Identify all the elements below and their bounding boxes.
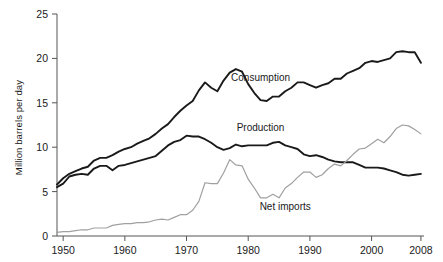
series-label-net-imports: Net imports: [260, 201, 311, 212]
y-tick-label: 20: [36, 52, 48, 64]
x-tick-label: 1960: [113, 244, 137, 256]
x-tick-label: 1950: [51, 244, 75, 256]
x-tick-label: 2008: [409, 244, 433, 256]
x-tick-label: 1980: [237, 244, 261, 256]
x-axis-ticks: 1950196019701980199020002008: [51, 236, 432, 256]
y-tick-label: 15: [36, 97, 48, 109]
x-tick-label: 1970: [175, 244, 199, 256]
series-line-production: [57, 136, 421, 188]
y-tick-label: 0: [42, 230, 48, 242]
oil-supply-line-chart: Million barrels per day 0510152025 19501…: [0, 0, 443, 262]
x-tick-label: 2000: [360, 244, 384, 256]
y-tick-label: 10: [36, 141, 48, 153]
series-label-production: Production: [237, 122, 285, 133]
y-tick-label: 25: [36, 8, 48, 20]
series-annotations: ConsumptionProductionNet imports: [231, 72, 311, 213]
series-label-consumption: Consumption: [231, 72, 290, 83]
y-axis-ticks: 0510152025: [36, 8, 57, 242]
series-line-net-imports: [57, 125, 421, 232]
y-tick-label: 5: [42, 186, 48, 198]
chart-plot-area: 0510152025 1950196019701980199020002008 …: [0, 0, 443, 262]
x-tick-label: 1990: [298, 244, 322, 256]
